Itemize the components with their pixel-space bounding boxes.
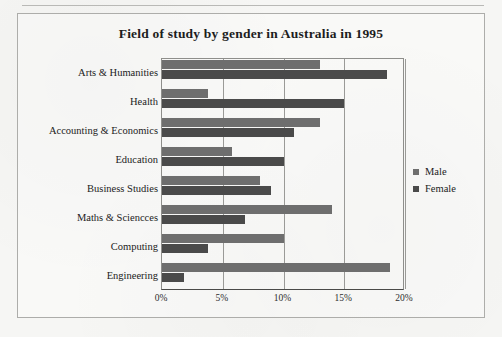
bar-series-container: [162, 59, 403, 289]
bar-male: [162, 60, 320, 69]
category-label: Computing: [18, 241, 158, 252]
bar-group: [162, 204, 403, 233]
bar-group: [162, 88, 403, 117]
bar-female: [162, 99, 344, 108]
x-tick-label: 5%: [215, 293, 228, 303]
bar-female: [162, 244, 208, 253]
bar-female: [162, 70, 387, 79]
bar-group: [162, 262, 403, 291]
category-label: Accounting & Economics: [18, 125, 158, 136]
bar-male: [162, 205, 332, 214]
bar-male: [162, 89, 208, 98]
page-top-rule: [22, 5, 484, 6]
bar-male: [162, 234, 284, 243]
x-tick-label: 20%: [395, 293, 412, 303]
figure-frame: Field of study by gender in Australia in…: [17, 13, 485, 318]
category-axis-labels: Arts & HumanitiesHealthAccounting & Econ…: [18, 58, 158, 290]
bar-male: [162, 263, 390, 272]
category-label: Health: [18, 96, 158, 107]
bar-group: [162, 59, 403, 88]
category-label: Engineering: [18, 270, 158, 281]
male-swatch: [413, 169, 419, 175]
category-label: Arts & Humanities: [18, 67, 158, 78]
category-label: Education: [18, 154, 158, 165]
category-label: Maths & Sciencces: [18, 212, 158, 223]
plot-area: [161, 58, 404, 290]
female-swatch: [413, 186, 419, 192]
legend: MaleFemale: [413, 166, 483, 200]
bar-female: [162, 128, 294, 137]
bar-male: [162, 147, 232, 156]
bar-female: [162, 157, 284, 166]
bar-male: [162, 176, 260, 185]
bar-group: [162, 175, 403, 204]
scanned-page-background: Field of study by gender in Australia in…: [0, 0, 502, 337]
legend-label: Female: [425, 183, 456, 194]
bar-group: [162, 233, 403, 262]
x-tick-label: 0%: [155, 293, 168, 303]
bar-group: [162, 146, 403, 175]
legend-item: Male: [413, 166, 483, 177]
x-tick-label: 10%: [274, 293, 291, 303]
legend-item: Female: [413, 183, 483, 194]
value-axis-tick-labels: 0%5%10%15%20%: [161, 293, 404, 309]
bar-female: [162, 186, 271, 195]
category-label: Business Studies: [18, 183, 158, 194]
bar-female: [162, 273, 184, 282]
gridline-20: [405, 59, 406, 289]
bar-group: [162, 117, 403, 146]
page-title: Field of study by gender in Australia in…: [18, 26, 484, 42]
bar-male: [162, 118, 320, 127]
legend-label: Male: [425, 166, 447, 177]
bar-female: [162, 215, 245, 224]
x-tick-label: 15%: [335, 293, 352, 303]
